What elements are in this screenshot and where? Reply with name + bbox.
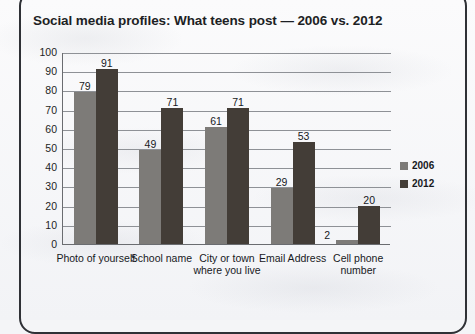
bar-2006-4[interactable] (271, 188, 293, 244)
y-axis-tick-label: 80 (11, 84, 57, 96)
y-axis-tick-label: 60 (11, 123, 57, 135)
bar-value-label: 71 (155, 96, 189, 108)
bar-2012-1[interactable] (96, 69, 118, 244)
y-axis-tick-label: 0 (11, 238, 57, 250)
legend-label-2006: 2006 (412, 160, 434, 171)
bar-value-label: 20 (352, 194, 386, 206)
x-axis-category-label: Cell phone number (316, 252, 400, 276)
bar-2012-3[interactable] (227, 108, 249, 244)
y-axis-tick-label: 50 (11, 142, 57, 154)
legend-swatch-2012-icon (400, 180, 408, 188)
bar-2012-2[interactable] (161, 108, 183, 244)
bar-value-label: 71 (221, 96, 255, 108)
legend-item-2006[interactable]: 2006 (400, 160, 434, 171)
y-axis-tick-label: 70 (11, 104, 57, 116)
bar-value-label: 2 (310, 229, 344, 241)
bar-value-label: 53 (287, 130, 321, 142)
y-axis-tick-label: 100 (11, 46, 57, 58)
y-axis-tick-label: 10 (11, 219, 57, 231)
y-axis-tick-label: 30 (11, 180, 57, 192)
y-axis-tick-label: 90 (11, 65, 57, 77)
chart-legend: 2006 2012 (400, 160, 434, 196)
chart-title: Social media profiles: What teens post —… (33, 13, 382, 28)
y-axis-tick-label: 40 (11, 161, 57, 173)
bar-2012-5[interactable] (358, 206, 380, 244)
plot-area: 10090807060504030201007991Photo of yours… (62, 53, 390, 245)
gridline (63, 53, 391, 54)
bar-2006-2[interactable] (139, 150, 161, 244)
bar-2006-1[interactable] (74, 92, 96, 244)
legend-label-2012: 2012 (412, 178, 434, 189)
legend-item-2012[interactable]: 2012 (400, 178, 434, 189)
legend-swatch-2006-icon (400, 162, 408, 170)
bar-value-label: 91 (90, 57, 124, 69)
y-axis-tick-label: 20 (11, 200, 57, 212)
bar-2006-3[interactable] (205, 127, 227, 244)
